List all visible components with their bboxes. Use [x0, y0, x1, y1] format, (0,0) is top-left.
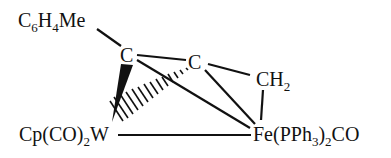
atom-ch2-label: CH2	[256, 68, 290, 94]
bond-aryl-c1	[97, 29, 121, 46]
atom-c2-label: C	[188, 51, 201, 73]
bond-wedge-c1-w	[112, 64, 133, 122]
bond-c1-c2	[137, 55, 186, 60]
bond-ch2-fe	[261, 90, 263, 120]
atom-w-label: Cp(CO)2W	[19, 123, 109, 149]
chemical-structure-diagram: C6H4Me C C CH2 Cp(CO)2W Fe(PPh3)2CO	[0, 0, 391, 158]
bond-c2-ch2	[208, 64, 250, 75]
atom-c1-label: C	[120, 44, 133, 66]
atom-fe-label: Fe(PPh3)2CO	[253, 123, 359, 149]
atom-aryl-label: C6H4Me	[18, 9, 86, 35]
